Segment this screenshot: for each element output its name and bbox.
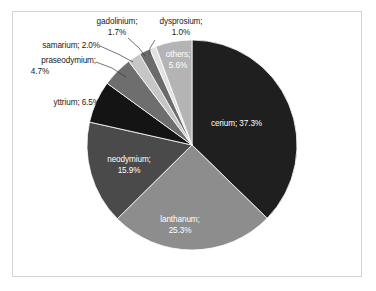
pie-label-dysprosium-value: 1.0% [146, 28, 216, 39]
pie-label-lanthanum-value: 25.3% [140, 226, 220, 237]
pie-label-neodymium: neodymium; 15.9% [89, 155, 169, 176]
pie-label-neodymium-name: neodymium; [89, 155, 169, 166]
pie-label-lanthanum: lanthanum; 25.3% [140, 215, 220, 236]
pie-label-yttrium: yttrium; 6.5% [10, 98, 100, 109]
pie-label-praseodymium-name: praseodymium; [6, 56, 96, 67]
pie-label-samarium: samarium; 2.0% [10, 41, 100, 52]
pie-label-cerium: cerium; 37.3% [211, 119, 311, 130]
pie-label-praseodymium: praseodymium; 4.7% [6, 56, 96, 77]
pie-label-neodymium-value: 15.9% [89, 166, 169, 177]
pie-label-praseodymium-value: 4.7% [6, 67, 96, 78]
leader-line-samarium [100, 46, 133, 62]
pie-label-others-value: 5.6% [156, 61, 200, 72]
pie-label-dysprosium: dysprosium; 1.0% [146, 17, 216, 38]
pie-label-others-name: others; [156, 50, 200, 61]
pie-label-lanthanum-name: lanthanum; [140, 215, 220, 226]
pie-label-dysprosium-name: dysprosium; [146, 17, 216, 28]
pie-label-others: others; 5.6% [156, 50, 200, 71]
